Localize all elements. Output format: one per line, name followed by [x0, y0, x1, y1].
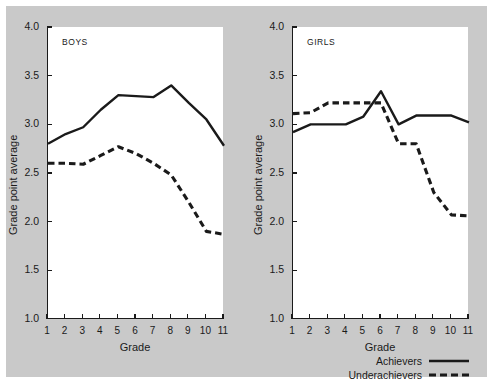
series-line-underachievers — [48, 147, 224, 235]
x-tick-mark — [432, 314, 433, 319]
x-tick-label: 10 — [445, 325, 456, 336]
x-tick-mark — [309, 314, 310, 319]
y-tick-mark — [292, 172, 297, 173]
x-tick-mark — [46, 314, 47, 319]
x-tick-mark — [415, 314, 416, 319]
y-tick-label: 1.5 — [13, 263, 39, 275]
y-tick-mark — [292, 75, 297, 76]
x-tick-label: 4 — [342, 325, 348, 336]
y-tick-mark — [292, 124, 297, 125]
legend-item-achievers: Achievers — [376, 355, 469, 367]
x-tick-mark — [64, 314, 65, 319]
x-tick-label: 5 — [115, 325, 121, 336]
plot-area-boys — [48, 27, 224, 319]
y-tick-label: 4.0 — [258, 20, 284, 32]
x-tick-mark — [152, 314, 153, 319]
x-tick-label: 8 — [167, 325, 173, 336]
legend-label-underachievers: Underachievers — [348, 369, 422, 381]
x-tick-mark — [450, 314, 451, 319]
x-tick-label: 3 — [324, 325, 330, 336]
x-tick-mark — [134, 314, 135, 319]
x-tick-mark — [379, 314, 380, 319]
x-tick-label: 11 — [218, 325, 228, 336]
legend-item-underachievers: Underachievers — [348, 369, 469, 381]
x-tick-mark — [205, 314, 206, 319]
x-tick-mark — [397, 314, 398, 319]
y-tick-mark — [292, 26, 297, 27]
x-tick-label: 2 — [62, 325, 68, 336]
x-tick-label: 1 — [289, 325, 295, 336]
x-tick-label: 2 — [307, 325, 313, 336]
x-tick-label: 9 — [185, 325, 191, 336]
y-tick-label: 3.0 — [13, 117, 39, 129]
x-tick-label: 6 — [377, 325, 383, 336]
legend-label-achievers: Achievers — [376, 355, 422, 367]
y-tick-mark — [47, 172, 52, 173]
x-tick-label: 7 — [150, 325, 156, 336]
series-line-underachievers — [293, 103, 469, 216]
y-tick-label: 4.0 — [13, 20, 39, 32]
chart-panel-boys: BOYS — [47, 27, 223, 319]
figure-root: BOYS 1.01.52.02.53.03.54.0Grade point av… — [0, 0, 493, 391]
y-tick-mark — [47, 270, 52, 271]
x-tick-label: 8 — [412, 325, 418, 336]
y-tick-label: 3.5 — [258, 69, 284, 81]
x-axis-title: Grade — [120, 341, 151, 353]
x-tick-mark — [362, 314, 363, 319]
y-tick-label: 3.5 — [13, 69, 39, 81]
y-tick-mark — [292, 221, 297, 222]
y-tick-label: 3.0 — [258, 117, 284, 129]
y-tick-mark — [47, 26, 52, 27]
legend-swatch-solid — [429, 356, 469, 366]
x-tick-mark — [187, 314, 188, 319]
y-tick-mark — [47, 124, 52, 125]
x-tick-mark — [82, 314, 83, 319]
series-line-achievers — [293, 91, 469, 132]
x-tick-mark — [467, 314, 468, 319]
x-tick-label: 11 — [463, 325, 473, 336]
x-tick-label: 10 — [200, 325, 211, 336]
x-tick-label: 5 — [360, 325, 366, 336]
x-tick-label: 1 — [44, 325, 50, 336]
x-tick-mark — [222, 314, 223, 319]
x-tick-label: 9 — [430, 325, 436, 336]
x-tick-mark — [291, 314, 292, 319]
x-tick-mark — [117, 314, 118, 319]
chart-panel-girls: GIRLS — [292, 27, 468, 319]
x-tick-mark — [344, 314, 345, 319]
y-tick-mark — [47, 75, 52, 76]
x-tick-label: 3 — [79, 325, 85, 336]
x-tick-label: 6 — [132, 325, 138, 336]
x-axis-title: Grade — [365, 341, 396, 353]
y-tick-label: 1.0 — [13, 312, 39, 324]
legend-swatch-dashed — [429, 370, 469, 380]
series-line-achievers — [48, 85, 224, 145]
x-tick-mark — [170, 314, 171, 319]
x-tick-label: 7 — [395, 325, 401, 336]
y-tick-label: 1.0 — [258, 312, 284, 324]
plot-area-girls — [293, 27, 469, 319]
y-tick-mark — [47, 221, 52, 222]
y-tick-label: 1.5 — [258, 263, 284, 275]
x-tick-mark — [327, 314, 328, 319]
x-tick-label: 4 — [97, 325, 103, 336]
x-tick-mark — [99, 314, 100, 319]
y-axis-title: Grade point average — [7, 135, 19, 235]
y-axis-title: Grade point average — [252, 135, 264, 235]
y-tick-mark — [292, 270, 297, 271]
